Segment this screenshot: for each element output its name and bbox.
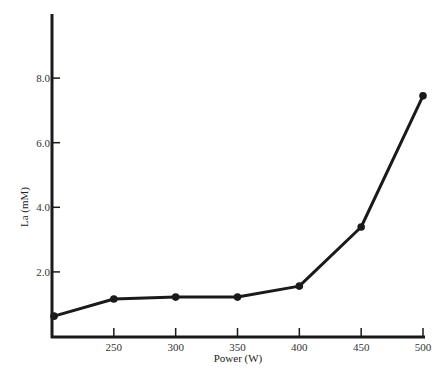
x-tick-label: 400 [291, 341, 308, 353]
x-ticks: 250300350400450500 [106, 328, 432, 353]
data-point [172, 293, 180, 301]
y-tick-label: 8.0 [36, 72, 50, 84]
data-point [50, 312, 58, 320]
data-point [234, 293, 242, 301]
y-tick-label: 2.0 [36, 266, 50, 278]
data-point [110, 295, 118, 303]
data-line [54, 96, 423, 316]
x-tick-label: 250 [106, 341, 123, 353]
x-axis-label: Power (W) [214, 352, 263, 365]
y-axis-label: La (mM) [18, 187, 31, 227]
y-tick-label: 4.0 [36, 201, 50, 213]
line-chart: 2.04.06.08.0 250300350400450500 Power (W… [0, 0, 448, 382]
data-point [296, 282, 304, 290]
y-ticks: 2.04.06.08.0 [36, 72, 60, 278]
x-tick-label: 450 [353, 341, 370, 353]
data-point [419, 92, 427, 100]
x-tick-label: 500 [415, 341, 432, 353]
data-point [357, 223, 365, 231]
x-tick-label: 300 [167, 341, 184, 353]
axes [51, 14, 425, 338]
y-tick-label: 6.0 [36, 137, 50, 149]
